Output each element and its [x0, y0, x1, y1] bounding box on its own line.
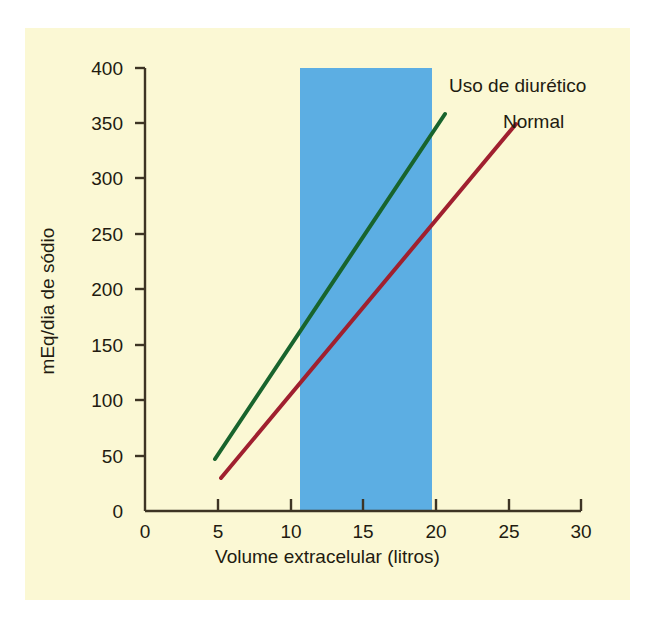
chart-panel: 400 350 300 250 200 150 100 50 0 0 5 10 … [25, 28, 630, 600]
y-tick-label-400: 400 [55, 59, 123, 78]
x-tick-label-30: 30 [570, 522, 591, 541]
y-tick-label-50: 50 [55, 447, 123, 466]
x-tick-label-25: 25 [498, 522, 519, 541]
x-tick-label-20: 20 [425, 522, 446, 541]
y-tick-label-350: 350 [55, 114, 123, 133]
y-tick-label-0: 0 [55, 502, 123, 521]
y-axis-title: mEq/dia de sódio [37, 186, 59, 416]
y-tick-label-300: 300 [55, 169, 123, 188]
x-tick-label-15: 15 [352, 522, 373, 541]
x-tick-label-0: 0 [140, 522, 151, 541]
y-tick-label-250: 250 [55, 225, 123, 244]
plot-area: 400 350 300 250 200 150 100 50 0 0 5 10 … [25, 28, 630, 600]
y-axis-ticks [135, 68, 145, 456]
x-tick-label-5: 5 [213, 522, 224, 541]
y-tick-label-200: 200 [55, 280, 123, 299]
series-annotation-uso-de-diuretico: Uso de diurético [449, 76, 586, 95]
y-tick-label-100: 100 [55, 391, 123, 410]
series-annotation-normal: Normal [503, 112, 564, 131]
shaded-region-faixa-normal-volume [300, 68, 432, 511]
figure-root: 400 350 300 250 200 150 100 50 0 0 5 10 … [0, 0, 655, 623]
y-tick-label-150: 150 [55, 336, 123, 355]
x-axis-title: Volume extracelular (litros) [25, 546, 630, 568]
x-tick-label-10: 10 [280, 522, 301, 541]
